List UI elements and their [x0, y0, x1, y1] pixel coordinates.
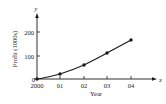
data-point [58, 72, 61, 75]
data-point [129, 38, 132, 41]
x-tick-label: 02 [81, 82, 88, 89]
y-axis-var: y [34, 5, 38, 12]
y-tick-label: 100 [24, 53, 34, 60]
data-point [105, 51, 108, 54]
x-axis-arrow-icon [152, 77, 157, 81]
profit-curve [37, 40, 131, 79]
x-axis-label: Year [90, 90, 103, 97]
chart: y x 0 100 200 Profit (1000s) 2000 01 02 … [0, 0, 166, 104]
data-point [35, 77, 38, 80]
x-axis-var: x [158, 76, 162, 83]
x-tick-label: 04 [128, 82, 135, 89]
x-tick-label: 03 [104, 82, 111, 89]
y-axis-label: Profit (1000s) [11, 31, 19, 67]
x-tick-label: 2000 [31, 82, 44, 89]
y-axis-arrow-icon [35, 13, 39, 18]
x-tick-label: 01 [57, 82, 64, 89]
data-point [82, 63, 85, 66]
y-tick-label: 200 [24, 29, 34, 36]
